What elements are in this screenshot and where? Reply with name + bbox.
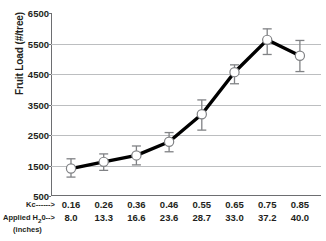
kc-row-label: Kc------>: [0, 199, 55, 211]
data-point-marker: [132, 151, 141, 160]
y-axis-tick-label: 1500: [19, 161, 49, 170]
data-point-marker: [165, 137, 174, 146]
x-axis-row-units: (inches): [0, 224, 326, 237]
y-axis-tick-mark: [47, 196, 51, 197]
y-axis-tick-label: 5500: [19, 39, 49, 48]
y-axis-tick-label: 6500: [19, 9, 49, 18]
data-point-marker: [197, 110, 206, 119]
data-point-marker: [66, 164, 75, 173]
applied-water-label-pre: Applied H: [3, 213, 38, 222]
x-axis-kc-value: 0.85: [278, 199, 322, 211]
inches-label: (inches): [0, 224, 55, 236]
y-axis-tick-label: 2500: [19, 131, 49, 140]
data-point-marker: [230, 68, 239, 77]
x-axis-row-kc: Kc------> 0.160.260.360.460.550.650.750.…: [0, 199, 326, 212]
fruit-load-chart: Fruit Load (#/tree) 65005500450035002500…: [0, 0, 326, 241]
data-point-marker: [263, 35, 272, 44]
y-axis-tick-label: 3500: [19, 100, 49, 109]
data-point-marker: [99, 157, 108, 166]
plot-area: [51, 13, 321, 196]
data-point-marker: [295, 51, 304, 60]
x-axis-applied-water-value: 40.0: [278, 212, 322, 224]
data-series-line: [51, 13, 321, 196]
y-axis-tick-label: 4500: [19, 70, 49, 79]
series-line: [71, 40, 300, 169]
